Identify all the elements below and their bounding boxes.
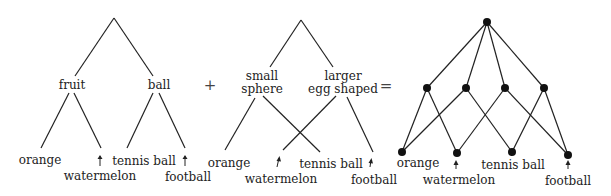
edge	[427, 88, 457, 153]
arrow-head-icon	[454, 160, 459, 165]
category-label-fruit: fruit	[59, 78, 86, 92]
equals-operator: =	[380, 77, 393, 95]
item-label-football: football	[545, 174, 591, 188]
edge	[41, 93, 69, 148]
edge	[347, 97, 373, 152]
edge	[505, 88, 568, 155]
edge	[75, 18, 114, 76]
category-label-small: small	[246, 69, 279, 83]
item-label-tennis-ball: tennis ball	[299, 157, 363, 171]
item-label-watermelon: watermelon	[423, 173, 496, 187]
arrow-head-icon	[98, 155, 103, 159]
edge	[225, 98, 255, 150]
lattice-node-watermelon	[453, 149, 461, 157]
plus-operator: +	[204, 76, 217, 94]
arrow-head-icon	[277, 156, 282, 162]
edge	[402, 88, 466, 152]
lattice-node-small-sphere	[462, 84, 470, 92]
tree-fruit-ball: fruit ball orange watermelon tennis ball…	[19, 18, 212, 184]
lattice-node-fruit	[423, 84, 431, 92]
lattice-node-football	[564, 151, 572, 159]
arrow-head-icon	[369, 158, 374, 164]
item-label-watermelon: watermelon	[245, 172, 318, 186]
category-label-larger: larger	[324, 69, 362, 83]
arrow-head-icon	[183, 155, 188, 159]
item-label-football: football	[165, 170, 211, 184]
edge	[512, 88, 544, 152]
item-label-orange: orange	[208, 156, 251, 170]
edge	[127, 93, 153, 148]
edge	[301, 20, 333, 67]
edge	[263, 96, 320, 152]
edge	[544, 88, 568, 155]
lattice: orange watermelon tennis ball football	[397, 18, 592, 188]
lattice-node-orange	[398, 148, 406, 156]
edge	[466, 88, 512, 152]
tree-shape: small sphere larger egg shaped orange wa…	[208, 20, 398, 187]
item-label-orange: orange	[19, 153, 62, 167]
lattice-node-ball	[501, 84, 509, 92]
arrow-head-icon	[566, 160, 571, 165]
item-label-football: football	[351, 173, 397, 187]
edge	[427, 22, 487, 88]
edge	[114, 18, 153, 76]
item-label-watermelon: watermelon	[64, 169, 137, 183]
edge	[457, 88, 505, 153]
category-label-ball: ball	[148, 78, 171, 92]
item-label-orange: orange	[397, 156, 440, 170]
lattice-node-top	[483, 18, 491, 26]
item-label-tennis-ball: tennis ball	[481, 158, 545, 172]
concept-lattice-figure: fruit ball orange watermelon tennis ball…	[0, 0, 611, 196]
lattice-node-tennis-ball	[508, 148, 516, 156]
edge	[466, 22, 487, 88]
category-label-sphere: sphere	[241, 82, 283, 96]
edge	[159, 93, 185, 148]
item-label-tennis-ball: tennis ball	[112, 154, 176, 168]
edge	[74, 93, 101, 148]
edge	[270, 20, 301, 67]
lattice-node-larger-egg-shaped	[540, 84, 548, 92]
edge	[402, 88, 427, 152]
category-label-egg-shaped: egg shaped	[308, 82, 378, 96]
